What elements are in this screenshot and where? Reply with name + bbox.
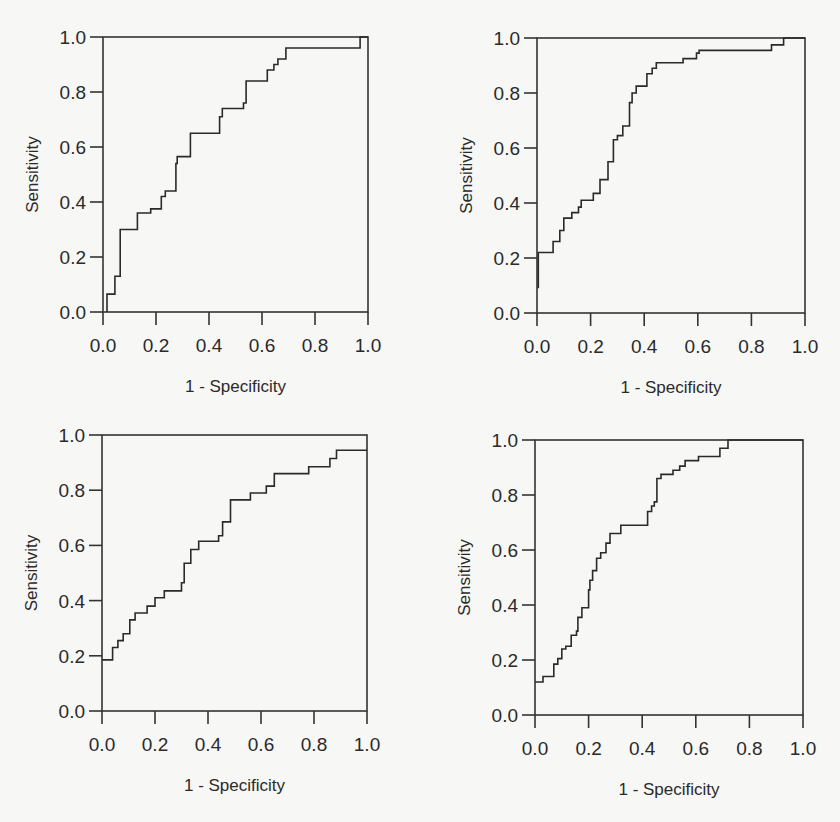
x-tick-label: 1.0	[792, 336, 818, 357]
y-tick-label: 0.8	[60, 82, 86, 103]
x-tick-label: 0.6	[685, 336, 711, 357]
y-tick-label: 0.4	[492, 595, 519, 616]
y-axis-label: Sensitivity	[457, 137, 476, 214]
y-tick-label: 1.0	[492, 430, 518, 451]
x-tick-label: 0.0	[522, 738, 548, 759]
x-tick-label: 0.6	[248, 734, 274, 755]
x-tick-label: 0.4	[631, 336, 658, 357]
x-tick-label: 0.6	[249, 335, 275, 356]
roc-curve	[535, 440, 803, 682]
y-tick-label: 1.0	[494, 28, 520, 49]
y-tick-label: 0.0	[59, 701, 85, 722]
roc-curve	[102, 450, 367, 660]
y-tick-label: 1.0	[59, 425, 85, 446]
x-tick-label: 0.8	[738, 336, 764, 357]
y-tick-label: 0.4	[494, 193, 521, 214]
roc-panel-top-right: 0.00.20.40.60.81.00.00.20.40.60.81.01 - …	[457, 28, 818, 397]
y-tick-label: 1.0	[60, 27, 86, 48]
plot-frame	[102, 435, 367, 711]
x-tick-label: 0.0	[89, 734, 115, 755]
y-tick-label: 0.6	[59, 535, 85, 556]
y-tick-label: 0.4	[60, 192, 87, 213]
roc-figure: 0.00.20.40.60.81.00.00.20.40.60.81.01 - …	[0, 0, 840, 822]
x-tick-label: 0.4	[195, 734, 222, 755]
y-tick-label: 0.6	[494, 138, 520, 159]
y-axis-label: Sensitivity	[23, 136, 42, 213]
x-tick-label: 0.8	[302, 335, 328, 356]
y-axis-label: Sensitivity	[455, 539, 474, 616]
y-tick-label: 0.8	[494, 83, 520, 104]
roc-panel-top-left: 0.00.20.40.60.81.00.00.20.40.60.81.01 - …	[23, 27, 381, 396]
plot-frame	[537, 38, 805, 313]
roc-curve	[538, 38, 805, 288]
x-axis-label: 1 - Specificity	[620, 378, 722, 397]
roc-panel-bottom-left: 0.00.20.40.60.81.00.00.20.40.60.81.01 - …	[22, 425, 380, 795]
x-tick-label: 0.2	[577, 336, 603, 357]
x-tick-label: 0.2	[142, 734, 168, 755]
x-axis-label: 1 - Specificity	[184, 776, 286, 795]
y-tick-label: 0.8	[59, 480, 85, 501]
y-tick-label: 0.8	[492, 485, 518, 506]
y-axis-label: Sensitivity	[22, 534, 41, 611]
y-tick-label: 0.6	[60, 137, 86, 158]
x-tick-label: 0.4	[629, 738, 656, 759]
plot-frame	[103, 37, 368, 312]
x-axis-label: 1 - Specificity	[618, 780, 720, 799]
x-tick-label: 1.0	[355, 335, 381, 356]
x-tick-label: 0.0	[524, 336, 550, 357]
y-tick-label: 0.6	[492, 540, 518, 561]
plot-frame	[535, 440, 803, 715]
y-tick-label: 0.2	[492, 650, 518, 671]
y-tick-label: 0.0	[494, 303, 520, 324]
x-tick-label: 1.0	[354, 734, 380, 755]
x-tick-label: 0.2	[143, 335, 169, 356]
y-tick-label: 0.0	[492, 705, 518, 726]
roc-panel-bottom-right: 0.00.20.40.60.81.00.00.20.40.60.81.01 - …	[455, 430, 816, 799]
y-tick-label: 0.0	[60, 302, 86, 323]
x-axis-label: 1 - Specificity	[185, 377, 287, 396]
y-tick-label: 0.2	[59, 646, 85, 667]
roc-curve	[107, 37, 368, 312]
y-tick-label: 0.4	[59, 591, 86, 612]
y-tick-label: 0.2	[494, 248, 520, 269]
x-tick-label: 0.8	[736, 738, 762, 759]
x-tick-label: 0.0	[90, 335, 116, 356]
x-tick-label: 1.0	[790, 738, 816, 759]
y-tick-label: 0.2	[60, 247, 86, 268]
x-tick-label: 0.8	[301, 734, 327, 755]
x-tick-label: 0.2	[575, 738, 601, 759]
x-tick-label: 0.6	[683, 738, 709, 759]
x-tick-label: 0.4	[196, 335, 223, 356]
